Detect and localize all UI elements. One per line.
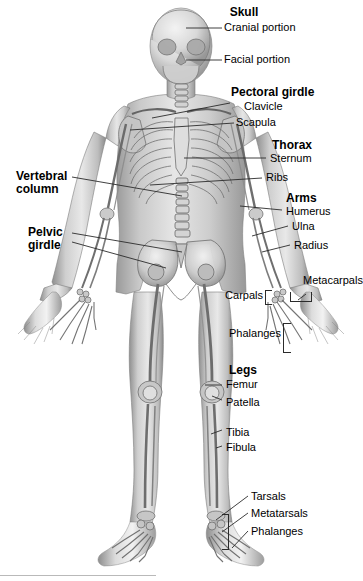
label-facial-portion: Facial portion bbox=[224, 53, 290, 65]
label-tarsals: Tarsals bbox=[251, 490, 286, 502]
leader-ulna bbox=[252, 226, 288, 236]
label-legs: Legs bbox=[229, 364, 257, 377]
leader-vertebral-column bbox=[72, 177, 182, 196]
leader-humerus bbox=[240, 206, 282, 210]
label-ulna: Ulna bbox=[292, 220, 315, 232]
label-metatarsals: Metatarsals bbox=[251, 507, 308, 519]
label-ribs: Ribs bbox=[266, 171, 288, 183]
label-pectoral-girdle: Pectoral girdle bbox=[231, 86, 314, 99]
label-skull: Skull bbox=[206, 6, 282, 19]
leader-pelvic-girdle-2 bbox=[72, 242, 166, 268]
leader-patella bbox=[212, 396, 222, 400]
leader-tibia bbox=[211, 430, 222, 434]
leader-ribs bbox=[150, 178, 262, 185]
leader-scapula bbox=[130, 123, 234, 130]
label-pelvic-girdle: Pelvic girdle bbox=[28, 226, 63, 253]
label-sternum: Sternum bbox=[270, 152, 312, 164]
label-patella: Patella bbox=[226, 396, 260, 408]
label-radius: Radius bbox=[294, 239, 328, 251]
label-vertebral-column: Vertebral column bbox=[16, 170, 67, 197]
bracket-phalanges-hand bbox=[283, 323, 291, 353]
label-phalanges-foot: Phalanges bbox=[251, 525, 303, 537]
label-femur: Femur bbox=[226, 378, 258, 390]
bottom-divider-rule bbox=[0, 575, 156, 576]
leader-radius bbox=[262, 245, 290, 252]
label-carpals: Carpals bbox=[201, 289, 263, 301]
label-metacarpals: Metacarpals bbox=[303, 274, 363, 286]
bracket-metacarpals bbox=[290, 292, 312, 302]
label-cranial-portion: Cranial portion bbox=[224, 21, 296, 33]
label-scapula: Scapula bbox=[236, 116, 276, 128]
bracket-tarsals-group bbox=[222, 514, 229, 550]
leader-clavicle bbox=[152, 103, 230, 118]
label-thorax: Thorax bbox=[272, 139, 312, 152]
leader-fibula bbox=[216, 446, 222, 448]
label-fibula: Fibula bbox=[226, 441, 256, 453]
bracket-carpals bbox=[265, 290, 272, 305]
label-tibia: Tibia bbox=[226, 426, 249, 438]
label-humerus: Humerus bbox=[286, 205, 331, 217]
leader-phalanges-foot bbox=[232, 531, 248, 548]
label-clavicle: Clavicle bbox=[244, 100, 283, 112]
leader-pelvic-girdle bbox=[72, 233, 182, 252]
label-arms: Arms bbox=[286, 192, 317, 205]
label-phalanges-hand: Phalanges bbox=[221, 327, 281, 339]
